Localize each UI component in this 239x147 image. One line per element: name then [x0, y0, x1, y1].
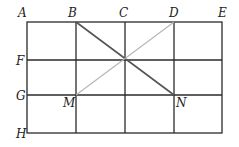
label-h: H	[15, 127, 27, 141]
label-d: D	[168, 6, 179, 20]
label-c: C	[119, 6, 128, 20]
label-f: F	[15, 54, 25, 68]
label-m: M	[62, 96, 76, 110]
label-g: G	[16, 89, 26, 103]
label-e: E	[217, 6, 227, 20]
label-n: N	[175, 96, 187, 110]
label-b: B	[67, 6, 77, 20]
grid-diagram: A B C D E F G H M N	[0, 0, 239, 147]
label-a: A	[17, 6, 27, 20]
